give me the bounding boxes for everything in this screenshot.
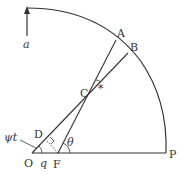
circular-arc bbox=[27, 8, 166, 153]
label-q: q bbox=[40, 157, 47, 170]
label-P: P bbox=[169, 148, 177, 161]
label-psi-t: ψt bbox=[4, 131, 18, 144]
label-C: C bbox=[80, 87, 88, 100]
label-D: D bbox=[34, 128, 43, 141]
label-B: B bbox=[130, 41, 138, 54]
line-OB bbox=[32, 53, 128, 153]
label-a: a bbox=[23, 38, 30, 51]
right-angle-mark bbox=[50, 137, 54, 144]
geometry-diagram: a A B C * D ψt O q F θ P bbox=[0, 0, 183, 174]
label-A: A bbox=[116, 27, 126, 40]
angle-arc-O bbox=[39, 146, 42, 153]
label-F: F bbox=[53, 158, 61, 171]
label-star: * bbox=[98, 82, 104, 95]
psi-pointer-line bbox=[20, 140, 36, 148]
label-theta: θ bbox=[67, 136, 74, 149]
label-O: O bbox=[24, 157, 33, 170]
arrow-up-icon bbox=[24, 6, 30, 14]
